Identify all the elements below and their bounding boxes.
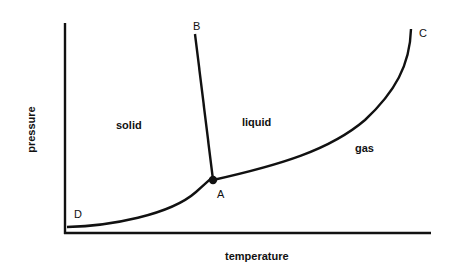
y-axis-label: pressure	[26, 102, 37, 158]
point-label-d: D	[74, 209, 82, 220]
solid-gas-boundary	[67, 178, 213, 227]
phase-diagram	[0, 0, 455, 271]
solid-liquid-boundary	[195, 34, 213, 180]
x-axis-label: temperature	[225, 251, 289, 262]
region-label-solid: solid	[116, 120, 142, 131]
point-label-a: A	[217, 189, 224, 200]
point-label-b: B	[193, 21, 200, 32]
region-label-liquid: liquid	[242, 117, 271, 128]
region-label-gas: gas	[355, 143, 374, 154]
triple-point-marker	[209, 176, 217, 184]
point-label-c: C	[419, 28, 427, 39]
liquid-gas-boundary	[213, 29, 411, 180]
